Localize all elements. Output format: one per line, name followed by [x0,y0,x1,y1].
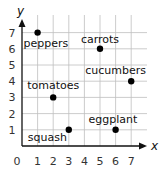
point-label: tomatoes [27,79,79,92]
scatter-chart: x y 012345671234567 pepperscarrotscucumb… [0,0,167,172]
y-tick-label: 6 [9,43,16,56]
point-label: squash [28,131,67,144]
y-axis-title: y [16,4,25,18]
y-tick-label: 1 [9,124,16,137]
point-label: eggplant [89,113,138,126]
point-marker-icon [34,29,40,35]
y-tick-label: 7 [9,27,16,40]
x-tick-label: 7 [128,155,135,168]
x-tick-label: 4 [81,155,88,168]
point-marker-icon [112,127,118,133]
x-tick-label: 5 [97,155,104,168]
point-label: peppers [24,37,69,50]
point-label: cucumbers [85,64,146,77]
x-tick-label: 2 [50,155,57,168]
x-axis-title: x [150,139,159,153]
point-marker-icon [97,46,103,52]
point-marker-icon [50,94,56,100]
y-tick-label: 5 [9,59,16,72]
point-marker-icon [128,78,134,84]
y-tick-label: 2 [9,108,16,121]
y-tick-label: 3 [9,91,16,104]
data-point-squash: squash [28,127,72,144]
x-tick-label: 0 [14,155,21,168]
point-label: carrots [81,33,119,46]
x-tick-label: 1 [34,155,41,168]
y-tick-label: 4 [9,75,16,88]
y-axis-arrow-icon [19,19,26,27]
data-points: pepperscarrotscucumberstomatoessquashegg… [24,29,147,143]
x-tick-label: 6 [112,155,119,168]
x-tick-label: 3 [65,155,72,168]
x-axis-arrow-icon [139,143,147,150]
